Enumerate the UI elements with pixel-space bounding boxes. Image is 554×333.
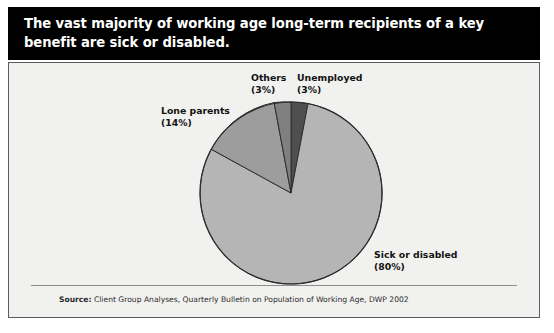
pie-label-lone-parents-percent: (14%) xyxy=(161,117,230,129)
chart-panel: Others (3%) Unemployed (3%) Lone parents… xyxy=(8,62,540,318)
pie-label-sick-or-disabled: Sick or disabled (80%) xyxy=(374,249,457,272)
pie-label-lone-parents-name: Lone parents xyxy=(161,105,230,116)
pie-label-lone-parents: Lone parents (14%) xyxy=(161,105,230,128)
pie-label-sick-or-disabled-name: Sick or disabled xyxy=(374,249,457,260)
pie-label-others-percent: (3%) xyxy=(251,84,286,96)
page-title: The vast majority of working age long-te… xyxy=(24,15,524,52)
pie-label-unemployed-name: Unemployed xyxy=(297,72,362,83)
pie-label-others: Others (3%) xyxy=(251,72,286,95)
pie-label-unemployed-percent: (3%) xyxy=(297,84,362,96)
pie-label-unemployed: Unemployed (3%) xyxy=(297,72,362,95)
pie-label-sick-or-disabled-percent: (80%) xyxy=(374,261,457,273)
figure-root: The vast majority of working age long-te… xyxy=(0,0,554,333)
source-note: Source: Client Group Analyses, Quarterly… xyxy=(59,295,409,305)
source-divider xyxy=(31,285,517,286)
pie-label-others-name: Others xyxy=(251,72,286,83)
title-line-1: The vast majority of working age long-te… xyxy=(24,16,484,31)
source-label: Source: xyxy=(59,295,92,304)
pie-chart xyxy=(9,63,541,319)
title-line-2: benefit are sick or disabled. xyxy=(24,35,230,50)
title-banner: The vast majority of working age long-te… xyxy=(8,7,540,60)
source-text: Client Group Analyses, Quarterly Bulleti… xyxy=(92,295,409,304)
